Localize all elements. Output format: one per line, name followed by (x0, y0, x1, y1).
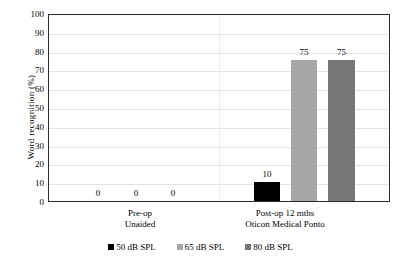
legend-label-80db: 80 dB SPL (253, 242, 293, 252)
category-divider (219, 15, 220, 201)
data-label-postop-50db: 10 (254, 170, 280, 179)
y-axis-tick-labels: 100 90 80 70 60 50 40 30 20 10 0 (18, 14, 44, 202)
plot-area: 0 0 0 10 75 75 (48, 14, 390, 202)
legend-item-50db: 50 dB SPL (108, 242, 156, 252)
legend-item-80db: 80 dB SPL (245, 242, 293, 252)
legend-swatch-icon-80db (245, 244, 251, 250)
data-label-preop-65db: 0 (123, 189, 149, 198)
y-tick-40: 40 (18, 122, 44, 131)
legend-swatch-icon-65db (177, 244, 183, 250)
legend-label-50db: 50 dB SPL (116, 242, 156, 252)
y-tick-90: 90 (18, 28, 44, 37)
y-tick-60: 60 (18, 85, 44, 94)
y-tick-0: 0 (18, 198, 44, 207)
data-label-postop-65db: 75 (291, 48, 317, 57)
bar-postop-50db (254, 182, 280, 201)
legend-swatch-icon-50db (108, 244, 114, 250)
y-tick-80: 80 (18, 47, 44, 56)
legend-label-65db: 65 dB SPL (185, 242, 225, 252)
category-label-preop-line2: Unaided (85, 219, 195, 230)
y-tick-10: 10 (18, 179, 44, 188)
data-label-preop-80db: 0 (160, 189, 186, 198)
y-tick-50: 50 (18, 104, 44, 113)
y-tick-30: 30 (18, 141, 44, 150)
category-label-postop-line2: Oticon Medical Ponto (210, 219, 360, 230)
legend-item-65db: 65 dB SPL (177, 242, 225, 252)
chart-legend: 50 dB SPL 65 dB SPL 80 dB SPL (0, 242, 401, 252)
data-label-postop-80db: 75 (328, 48, 355, 57)
y-tick-20: 20 (18, 160, 44, 169)
category-label-preop-line1: Pre-op (85, 208, 195, 219)
bar-postop-65db (291, 60, 317, 201)
y-tick-100: 100 (18, 10, 44, 19)
category-label-postop-line1: Post-op 12 mths (210, 208, 360, 219)
data-label-preop-50db: 0 (85, 189, 111, 198)
y-tick-70: 70 (18, 66, 44, 75)
word-recognition-bar-chart: Word recognition (%) 100 90 80 70 60 50 … (0, 0, 401, 267)
bar-postop-80db (328, 60, 355, 201)
